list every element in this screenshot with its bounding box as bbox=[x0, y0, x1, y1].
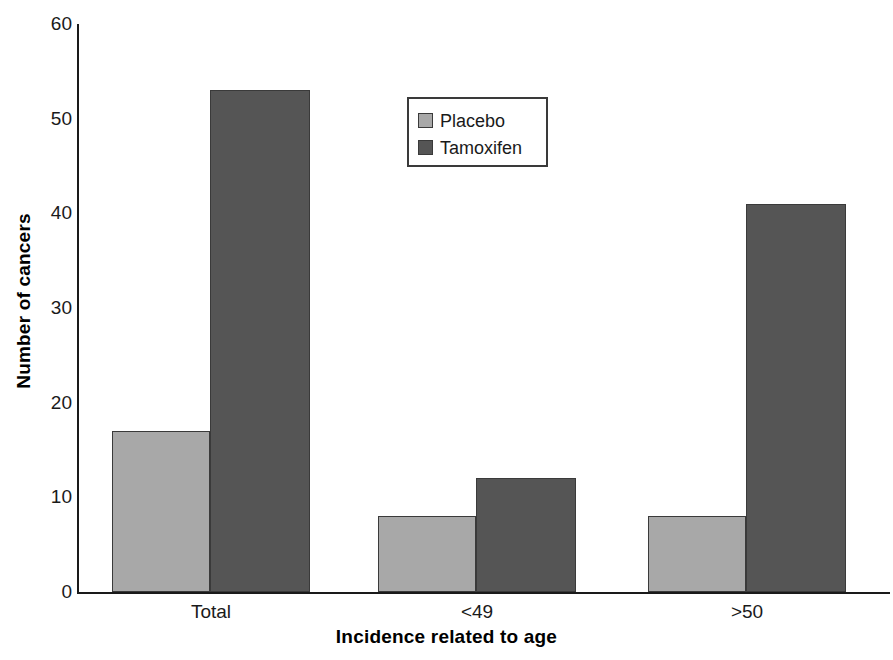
bar-tamoxifen-50 bbox=[746, 204, 846, 592]
y-axis-tick-label: 10 bbox=[26, 487, 72, 506]
legend-swatch-tamoxifen-icon bbox=[418, 140, 433, 155]
bar-placebo-49 bbox=[378, 516, 476, 592]
y-axis-tick-label: 60 bbox=[26, 14, 72, 33]
legend-label-placebo: Placebo bbox=[440, 112, 505, 130]
x-axis-line bbox=[77, 592, 890, 594]
x-axis-tick-label: Total bbox=[72, 601, 350, 623]
x-axis-tick-label: >50 bbox=[608, 601, 886, 623]
legend-label-tamoxifen: Tamoxifen bbox=[440, 139, 522, 157]
legend-item-placebo[interactable]: Placebo bbox=[418, 107, 546, 134]
bar-placebo-total bbox=[112, 431, 210, 592]
y-axis-tick-labels: 0102030405060 bbox=[20, 0, 72, 620]
bar-placebo-50 bbox=[648, 516, 746, 592]
x-axis-tick-label: <49 bbox=[338, 601, 616, 623]
bar-chart: Number of cancers 0102030405060 Incidenc… bbox=[0, 0, 893, 660]
y-axis-tick-label: 30 bbox=[26, 298, 72, 317]
y-axis-tick-label: 50 bbox=[26, 109, 72, 128]
bar-tamoxifen-49 bbox=[476, 478, 576, 592]
bar-tamoxifen-total bbox=[210, 90, 310, 592]
legend-swatch-placebo-icon bbox=[418, 113, 433, 128]
y-axis-tick-label: 0 bbox=[26, 582, 72, 601]
x-axis-title: Incidence related to age bbox=[0, 626, 893, 648]
chart-legend: Placebo Tamoxifen bbox=[407, 97, 548, 167]
y-axis-tick-label: 40 bbox=[26, 203, 72, 222]
legend-item-tamoxifen[interactable]: Tamoxifen bbox=[418, 134, 546, 161]
y-axis-tick-label: 20 bbox=[26, 393, 72, 412]
